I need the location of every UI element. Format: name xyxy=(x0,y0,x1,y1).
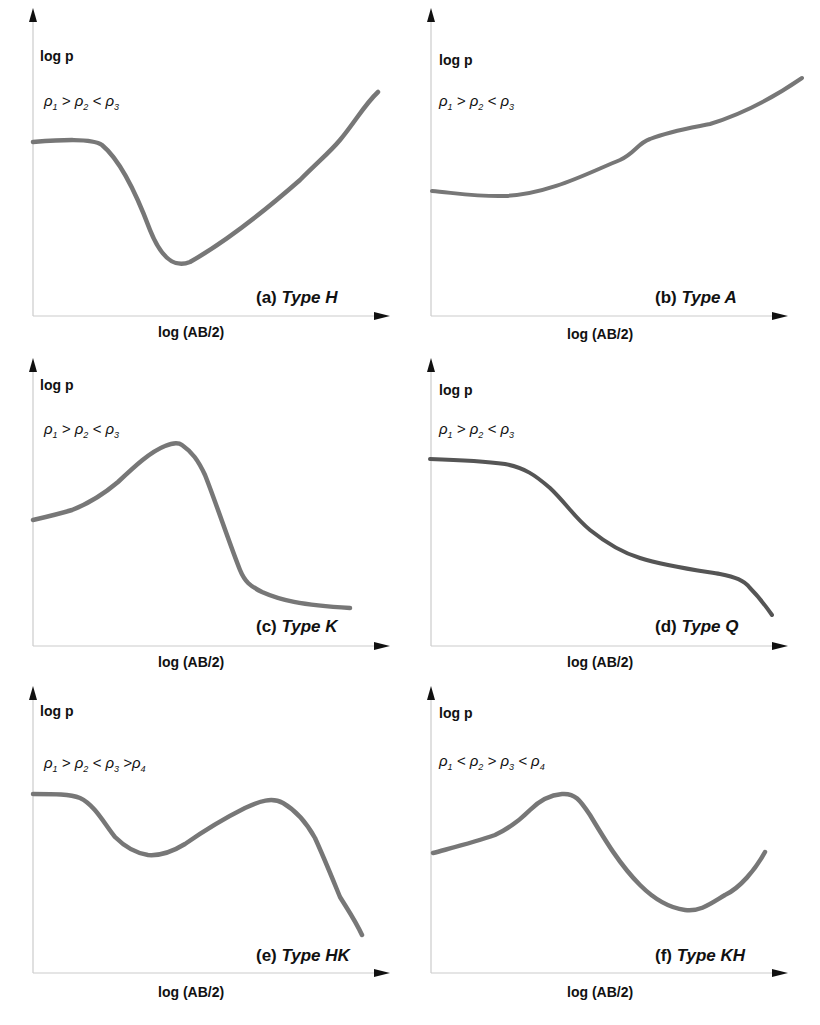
panel-caption: (d) Type Q xyxy=(655,617,738,637)
y-axis-label: log p xyxy=(40,703,73,719)
chart-type-q xyxy=(410,330,820,670)
chart-type-hk xyxy=(0,670,410,1025)
resistivity-relation: ρ1 > ρ2 < ρ3 xyxy=(439,420,514,440)
chart-type-kh xyxy=(410,670,820,1025)
panel-caption: (c) Type K xyxy=(256,617,338,637)
panel-caption: (e) Type HK xyxy=(256,946,350,966)
x-axis-label: log (AB/2) xyxy=(158,984,224,1000)
resistivity-relation: ρ1 > ρ2 < ρ3 >ρ4 xyxy=(44,754,146,774)
y-axis-label: log p xyxy=(40,48,73,64)
panel-caption: (b) Type A xyxy=(655,288,737,308)
panel-type-h: log p ρ1 > ρ2 < ρ3 (a) Type H log (AB/2) xyxy=(0,0,410,335)
resistivity-relation: ρ1 > ρ2 < ρ3 xyxy=(44,92,119,112)
y-axis-label: log p xyxy=(439,382,472,398)
chart-type-a xyxy=(410,0,820,335)
x-axis-label: log (AB/2) xyxy=(567,654,633,670)
panel-caption: (f) Type KH xyxy=(655,946,745,966)
y-axis-label: log p xyxy=(40,377,73,393)
panel-type-kh: log p ρ1 < ρ2 > ρ3 < ρ4 (f) Type KH log … xyxy=(410,670,820,1025)
y-axis-label: log p xyxy=(439,705,472,721)
panel-caption: (a) Type H xyxy=(256,288,338,308)
resistivity-relation: ρ1 > ρ2 < ρ3 xyxy=(44,420,119,440)
x-axis-label: log (AB/2) xyxy=(158,654,224,670)
panel-type-a: log p ρ1 > ρ2 < ρ3 (b) Type A log (AB/2) xyxy=(410,0,820,335)
resistivity-relation: ρ1 < ρ2 > ρ3 < ρ4 xyxy=(439,752,545,772)
panel-type-hk: log p ρ1 > ρ2 < ρ3 >ρ4 (e) Type HK log (… xyxy=(0,670,410,1025)
panel-type-q: log p ρ1 > ρ2 < ρ3 (d) Type Q log (AB/2) xyxy=(410,330,820,670)
y-axis-label: log p xyxy=(439,52,472,68)
panel-type-k: log p ρ1 > ρ2 < ρ3 (c) Type K log (AB/2) xyxy=(0,330,410,670)
x-axis-label: log (AB/2) xyxy=(567,984,633,1000)
resistivity-relation: ρ1 > ρ2 < ρ3 xyxy=(439,92,514,112)
